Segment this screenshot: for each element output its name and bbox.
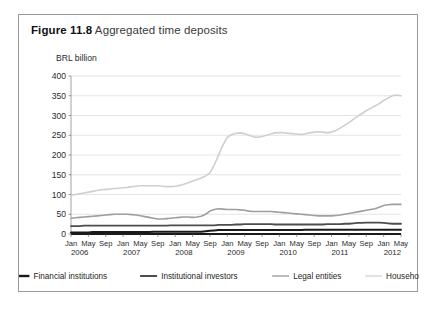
y-axis-tick-label: 100 bbox=[52, 190, 67, 200]
x-axis-tick-label: Jan bbox=[117, 239, 129, 248]
x-axis-tick-label: Jan bbox=[325, 239, 337, 248]
series-line-legal-entities bbox=[71, 204, 401, 219]
line-chart-svg: 050100150200250300350400 JanMaySepJanMay… bbox=[19, 15, 419, 293]
y-axis-tick-label: 0 bbox=[61, 229, 66, 239]
chart-legend: Financial institutionsInstitutional inve… bbox=[19, 272, 419, 281]
x-axis-tick-label: Jan bbox=[378, 239, 390, 248]
x-axis-tick-label: Jan bbox=[273, 239, 285, 248]
x-axis-tick-label: May bbox=[238, 239, 253, 248]
legend-label-households: Households bbox=[386, 272, 419, 281]
x-axis-tick-label: Sep bbox=[203, 239, 217, 248]
x-axis-tick-label: May bbox=[394, 239, 409, 248]
x-axis-tick-label: Sep bbox=[255, 239, 269, 248]
x-axis-tick-label: Sep bbox=[151, 239, 165, 248]
x-axis-tick-label: Jan bbox=[221, 239, 233, 248]
x-axis-tick-label: Sep bbox=[99, 239, 113, 248]
x-axis-tick-label: May bbox=[290, 239, 305, 248]
y-axis-tick-label: 300 bbox=[52, 111, 67, 121]
x-axis-tick-label: May bbox=[342, 239, 357, 248]
x-axis-ticks: JanMaySepJanMaySepJanMaySepJanMaySepJanM… bbox=[65, 234, 408, 257]
x-axis-tick-label: Sep bbox=[307, 239, 321, 248]
legend-label-legal-entities: Legal entities bbox=[293, 272, 341, 281]
x-axis-tick-label: May bbox=[133, 239, 148, 248]
y-axis-tick-label: 50 bbox=[56, 209, 66, 219]
y-axis-tick-label: 350 bbox=[52, 91, 67, 101]
x-axis-tick-label: Jan bbox=[169, 239, 181, 248]
series-line-institutional-investors bbox=[71, 223, 401, 227]
x-axis-year-label: 2008 bbox=[175, 248, 192, 257]
figure-container: Figure 11.8 Aggregated time deposits BRL… bbox=[18, 14, 418, 292]
x-axis-year-label: 2012 bbox=[384, 248, 401, 257]
y-axis-tick-label: 200 bbox=[52, 150, 67, 160]
x-axis-year-label: 2007 bbox=[123, 248, 140, 257]
x-axis-tick-label: May bbox=[81, 239, 96, 248]
x-axis-tick-label: Jan bbox=[65, 239, 77, 248]
x-axis-tick-label: May bbox=[185, 239, 200, 248]
x-axis-year-label: 2009 bbox=[227, 248, 244, 257]
y-axis-tick-label: 250 bbox=[52, 130, 67, 140]
y-axis-ticks: 050100150200250300350400 bbox=[52, 71, 71, 239]
legend-label-institutional-investors: Institutional investors bbox=[161, 272, 237, 281]
x-axis-tick-label: Sep bbox=[360, 239, 374, 248]
series-line-financial-institutions bbox=[71, 230, 401, 233]
y-axis-tick-label: 400 bbox=[52, 71, 67, 81]
series-line-households bbox=[71, 95, 401, 195]
y-axis-tick-label: 150 bbox=[52, 170, 67, 180]
x-axis-year-label: 2011 bbox=[332, 248, 349, 257]
chart-plot-area: 050100150200250300350400 JanMaySepJanMay… bbox=[19, 15, 419, 293]
legend-label-financial-institutions: Financial institutions bbox=[33, 272, 107, 281]
x-axis-year-label: 2006 bbox=[71, 248, 88, 257]
x-axis-year-label: 2010 bbox=[279, 248, 297, 257]
